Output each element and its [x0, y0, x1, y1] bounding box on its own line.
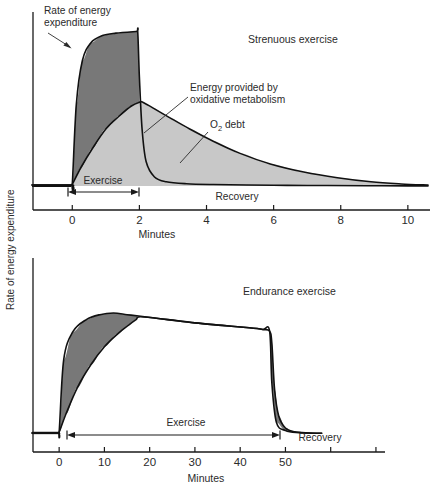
bottom-panel-title: Endurance exercise — [243, 285, 336, 297]
top-x-axis-tick-labels: 0246810 — [69, 214, 414, 226]
bottom-exercise-span: Exercise — [67, 417, 280, 440]
o2-debt-prefix: O — [210, 119, 218, 130]
x-axis-tick-label: 8 — [338, 214, 344, 226]
x-axis-tick-label: 0 — [56, 456, 62, 468]
bottom-recovery-span-label: Recovery — [298, 432, 342, 443]
bottom-x-axis-tick-labels: 01020304050 — [56, 456, 292, 468]
x-axis-tick-label: 4 — [203, 214, 210, 226]
bottom-x-axis-ticks — [59, 447, 376, 452]
x-axis-tick-label: 10 — [401, 214, 414, 226]
o2-debt-suffix: debt — [222, 119, 245, 130]
o2-debt-text: O2 debt — [210, 119, 245, 133]
x-axis-tick-label: 40 — [234, 456, 247, 468]
oxidative-metabolism-light-region — [71, 102, 428, 186]
y-axis-label: Rate of energy expenditure — [5, 189, 16, 310]
x-axis-tick-label: 0 — [69, 214, 75, 226]
chart-strenuous-exercise: 0246810 Minutes Strenuous exercise Rate … — [32, 5, 430, 240]
exercise-span-arrowhead-left — [67, 432, 75, 438]
x-axis-tick-label: 6 — [270, 214, 276, 226]
exercise-energy-expenditure-figure: Rate of energy expenditure 0246810 Minut… — [0, 0, 434, 490]
exercise-span-arrowhead-right — [131, 189, 139, 195]
x-axis-tick-label: 2 — [136, 214, 142, 226]
callout-line-1: Energy provided by — [190, 82, 279, 93]
callout-line-2: oxidative metabolism — [190, 94, 285, 105]
chart-endurance-exercise: 01020304050 Minutes Endurance exercise E… — [32, 258, 385, 484]
top-x-axis-title: Minutes — [139, 228, 176, 240]
x-axis-tick-label: 30 — [189, 456, 202, 468]
top-x-axis-ticks — [72, 205, 408, 210]
exercise-span-label: Exercise — [166, 417, 205, 428]
x-axis-tick-label: 20 — [143, 456, 156, 468]
x-axis-tick-label: 50 — [279, 456, 292, 468]
x-axis-tick-label: 10 — [98, 456, 111, 468]
callout-line-1: Rate of energy — [44, 5, 112, 16]
callout-line-2: expenditure — [44, 17, 98, 28]
exercise-span-label: Exercise — [83, 175, 122, 186]
top-recovery-span-label: Recovery — [215, 191, 259, 202]
bottom-x-axis-title: Minutes — [188, 472, 225, 484]
o2-deficit-dark-region — [59, 313, 137, 432]
callout-arrowhead — [63, 42, 71, 49]
exercise-span-arrowhead-right — [272, 432, 280, 438]
top-panel-title: Strenuous exercise — [248, 33, 338, 45]
